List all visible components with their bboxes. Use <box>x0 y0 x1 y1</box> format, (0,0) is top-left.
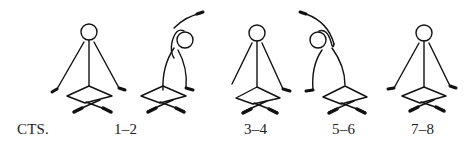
figure-side-bend-left <box>300 12 367 113</box>
counts-label: CTS. <box>17 121 49 138</box>
count-label-3-4: 3–4 <box>244 121 267 138</box>
exercise-diagram <box>0 0 467 146</box>
figure-upright-2 <box>232 25 290 113</box>
count-label-7-8: 7–8 <box>411 121 434 138</box>
figure-upright-3 <box>388 25 456 111</box>
count-label-1-2: 1–2 <box>114 121 137 138</box>
figure-side-bend-right <box>141 12 203 112</box>
count-label-5-6: 5–6 <box>332 121 355 138</box>
figure-upright-1 <box>52 24 125 112</box>
